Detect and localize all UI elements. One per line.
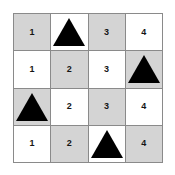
triangle-icon [90, 129, 124, 159]
grid-cell-r4c1[interactable]: 1 [14, 126, 50, 162]
cell-number: 3 [104, 65, 109, 74]
cell-number: 4 [141, 102, 146, 111]
cell-number: 1 [30, 65, 35, 74]
triangle-icon [52, 17, 86, 47]
cell-number: 1 [30, 28, 35, 37]
grid-cell-r2c2[interactable]: 2 [51, 51, 87, 87]
cell-number: 2 [67, 102, 72, 111]
grid-cell-r4c3[interactable] [89, 126, 125, 162]
cell-number: 3 [104, 28, 109, 37]
grid-cell-r4c4[interactable]: 4 [126, 126, 162, 162]
grid-cell-r4c2[interactable]: 2 [51, 126, 87, 162]
grid-cell-r3c3[interactable]: 3 [89, 89, 125, 125]
grid-cell-r1c3[interactable]: 3 [89, 14, 125, 50]
cell-number: 1 [30, 139, 35, 148]
grid-cell-r3c1[interactable] [14, 89, 50, 125]
triangle-icon [15, 92, 49, 122]
cell-number: 2 [67, 139, 72, 148]
grid-cell-r2c4[interactable] [126, 51, 162, 87]
grid-cell-r3c4[interactable]: 4 [126, 89, 162, 125]
cell-number: 3 [104, 102, 109, 111]
triangle-icon [127, 54, 161, 84]
cell-number: 4 [141, 139, 146, 148]
grid-cell-r3c2[interactable]: 2 [51, 89, 87, 125]
puzzle-grid: 134123234124 [13, 13, 163, 163]
grid-cell-r1c2[interactable] [51, 14, 87, 50]
cell-number: 4 [141, 28, 146, 37]
grid-cell-r2c3[interactable]: 3 [89, 51, 125, 87]
cell-number: 2 [67, 65, 72, 74]
grid-cell-r1c1[interactable]: 1 [14, 14, 50, 50]
grid-cell-r2c1[interactable]: 1 [14, 51, 50, 87]
grid-cell-r1c4[interactable]: 4 [126, 14, 162, 50]
